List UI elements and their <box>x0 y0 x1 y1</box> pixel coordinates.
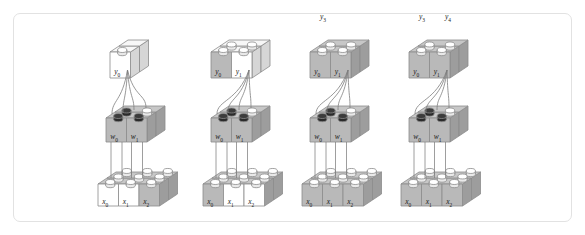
group-4: x0x1x2w0w1y0y1y3y4 <box>399 0 529 235</box>
wire-1 <box>228 70 249 112</box>
y-to-w-wires <box>399 0 539 235</box>
wire-1 <box>327 70 348 112</box>
wire-1 <box>426 70 447 112</box>
wire-3 <box>447 70 449 108</box>
wire-3 <box>249 70 251 108</box>
lego-diagram-canvas: x0x1x2w0w1y0x0x1x2w0w1y0y1x0x1x2w0w1y0y1… <box>0 0 585 235</box>
top-label-y4: y4 <box>445 12 451 23</box>
top-label-y3: y3 <box>320 12 326 23</box>
wire-2 <box>128 70 135 110</box>
wire-1 <box>123 70 128 112</box>
wire-3 <box>348 70 350 108</box>
top-label-y3: y3 <box>419 12 425 23</box>
